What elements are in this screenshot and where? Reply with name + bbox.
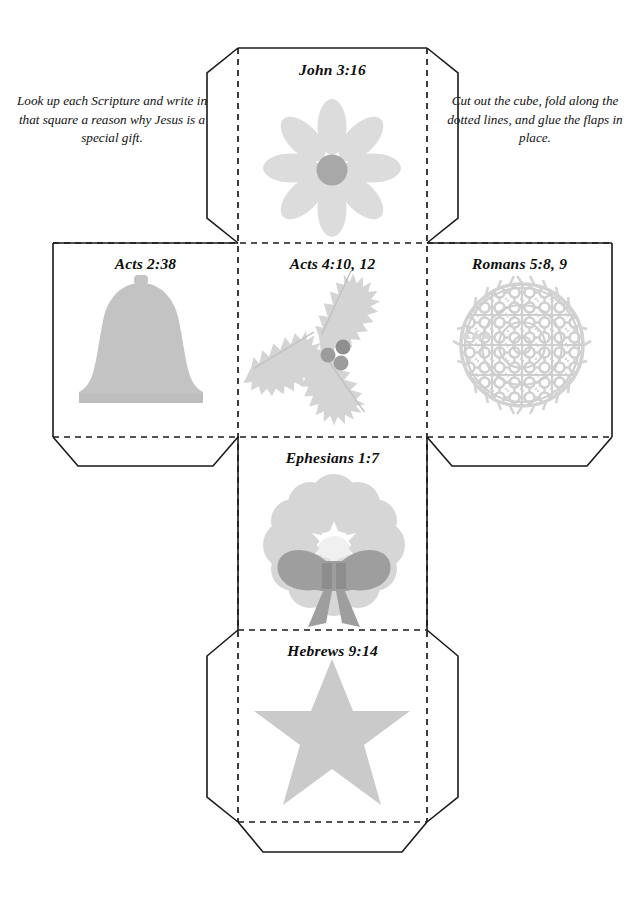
bell-icon	[79, 275, 203, 403]
face-label-acts-238: Acts 2:38	[53, 256, 238, 272]
flower-icon	[263, 99, 401, 237]
left-face-bottom-flap	[53, 437, 238, 466]
craft-template-sheet: Look up each Scripture and write in that…	[0, 0, 643, 898]
holly-icon	[234, 266, 391, 436]
bottom-left-flap	[207, 630, 238, 822]
bottom-glue-flap	[238, 822, 427, 852]
wreath-icon	[263, 474, 405, 627]
face-label-hebrews: Hebrews 9:14	[238, 643, 427, 659]
instructions-right: Cut out the cube, fold along the dotted …	[440, 92, 630, 148]
top-left-flap	[207, 48, 238, 243]
star-icon	[254, 659, 410, 805]
face-label-acts-410: Acts 4:10, 12	[238, 256, 427, 272]
right-face-bottom-flap	[427, 437, 612, 466]
bottom-right-flap	[427, 630, 458, 822]
instructions-left: Look up each Scripture and write in that…	[14, 92, 210, 148]
face-label-ephesians: Ephesians 1:7	[238, 450, 427, 466]
face-label-romans: Romans 5:8, 9	[427, 256, 612, 272]
face-label-john: John 3:16	[238, 62, 427, 78]
ornament-ball-icon	[453, 276, 591, 414]
